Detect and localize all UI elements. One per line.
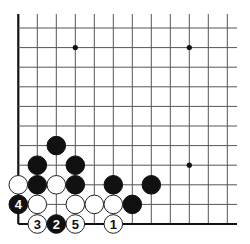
move-number-label: 2 [53, 217, 60, 232]
black-stone-move-4: 4 [9, 195, 28, 214]
black-stone [47, 136, 66, 155]
white-stone-icon [28, 195, 47, 214]
white-stone-move-1: 1 [104, 215, 123, 234]
white-stone [104, 195, 123, 214]
white-stone-move-5: 5 [66, 215, 85, 234]
move-number-label: 5 [72, 217, 79, 232]
black-stone-icon [28, 156, 47, 175]
black-stone [66, 156, 85, 175]
black-stone [28, 156, 47, 175]
go-board: 43251 [0, 0, 250, 244]
move-number-label: 4 [15, 197, 23, 212]
black-stone-icon [66, 156, 85, 175]
star-point-icon [73, 45, 78, 50]
black-stone-move-2: 2 [47, 215, 66, 234]
white-stone-move-3: 3 [28, 215, 47, 234]
white-stone [85, 195, 104, 214]
black-stone-icon [47, 136, 66, 155]
white-stone-icon [85, 195, 104, 214]
black-stone-icon [123, 195, 142, 214]
white-stone-icon [47, 176, 66, 195]
white-stone [28, 195, 47, 214]
black-stone [28, 176, 47, 195]
white-stone-icon [104, 195, 123, 214]
star-point-icon [187, 163, 192, 168]
white-stone [47, 176, 66, 195]
black-stone-icon [66, 176, 85, 195]
white-stone [66, 195, 85, 214]
black-stone [66, 176, 85, 195]
black-stone-icon [142, 176, 161, 195]
black-stone [142, 176, 161, 195]
star-point-icon [187, 45, 192, 50]
black-stone-icon [28, 176, 47, 195]
black-stone [123, 195, 142, 214]
white-stone-icon [66, 195, 85, 214]
black-stone-icon [104, 176, 123, 195]
white-stone [9, 176, 28, 195]
move-number-label: 3 [34, 217, 41, 232]
white-stone-icon [9, 176, 28, 195]
move-number-label: 1 [110, 217, 117, 232]
black-stone [104, 176, 123, 195]
